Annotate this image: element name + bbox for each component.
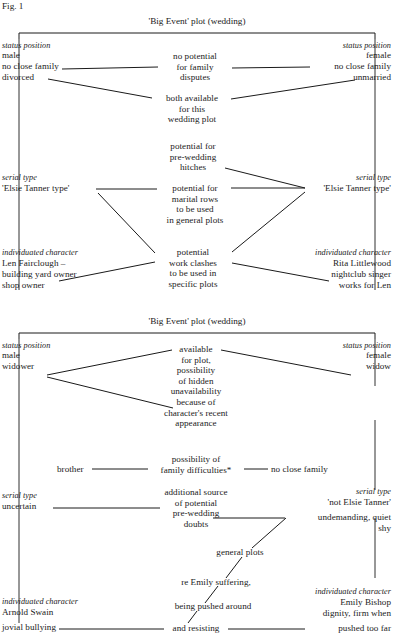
- bottom-center-block-general-plots: general plots: [216, 547, 263, 558]
- bottom-left-status-line-1: widower: [2, 361, 34, 372]
- top-right-character-line-2: works for Len: [339, 280, 391, 291]
- line-notelsie-to-generalplots: [252, 518, 286, 548]
- bottom-center-block-family-difficulties: possibility of family difficulties*: [161, 454, 232, 475]
- bottom-right-status-line-0: female: [366, 350, 391, 361]
- top-center-block-marital-rows: potential for marital rows to be used in…: [167, 183, 224, 225]
- center-line: family difficulties*: [161, 465, 232, 476]
- bottom-right-status-line-1: widow: [366, 361, 391, 372]
- bottom-right-serial-line-1: undemanding, quiet: [318, 512, 391, 523]
- top-left-character-line-2: shop owner: [2, 280, 45, 291]
- top-right-status-line-2: unmarried: [353, 72, 391, 83]
- top-center-block-both-available: both available for this wedding plot: [166, 93, 218, 125]
- center-line: appearance: [164, 418, 228, 429]
- top-center-block-no-potential-family-disputes: no potential for family disputes: [173, 51, 217, 83]
- center-line: potential for: [170, 141, 217, 152]
- center-line: pre-wedding: [170, 152, 217, 163]
- top-right-character-line-1: nightclub singer: [331, 269, 391, 280]
- center-line: possibility of: [161, 454, 232, 465]
- line-widower-to-becauseof: [47, 377, 173, 408]
- top-right-character-heading: individuated character: [315, 248, 391, 259]
- bottom-right-character-line-2: pushed too far: [338, 623, 391, 634]
- line-l-elsie-to-workclashes: [98, 193, 155, 253]
- bottom-side-label-no-close-family: no close family: [271, 464, 328, 475]
- top-left-serial-line-0: 'Elsie Tanner type': [2, 183, 70, 194]
- top-right-status-line-0: female: [366, 50, 391, 61]
- center-line: marital rows: [167, 194, 224, 205]
- center-line: both available: [166, 93, 218, 104]
- center-line: pre-wedding: [164, 508, 227, 519]
- bottom-side-label-brother: brother: [57, 464, 84, 475]
- line-pushedaround-to-resisting: [188, 611, 197, 623]
- top-right-serial-heading: serial type: [356, 173, 391, 184]
- line-l-noclosefamily-to-disputes: [62, 67, 158, 69]
- line-divorced-to-bothavailable: [48, 79, 152, 98]
- center-line: doubts: [164, 519, 227, 530]
- center-line: because of: [164, 397, 228, 408]
- top-center-block-work-clashes: potential work clashes to be used in spe…: [169, 247, 218, 289]
- top-center-block-pre-wedding-hitches: potential for pre-wedding hitches: [170, 141, 217, 173]
- center-line: wedding plot: [166, 114, 218, 125]
- bottom-right-serial-line-2: shy: [378, 523, 391, 534]
- center-line: work clashes: [169, 258, 218, 269]
- top-right-character-line-0: Rita Littlewood: [333, 258, 391, 269]
- top-right-serial-line-0: 'Elsie Tanner type': [323, 183, 391, 194]
- bottom-right-character-line-1: dignity, firm when: [323, 608, 391, 619]
- center-line: in general plots: [167, 215, 224, 226]
- diagram-top-caption: 'Big Event' plot (wedding): [149, 16, 246, 26]
- top-left-status-line-2: divorced: [2, 72, 34, 83]
- top-bracket: [19, 33, 375, 39]
- bottom-center-block-being-pushed-around: being pushed around: [175, 601, 252, 612]
- center-line: to be used: [167, 204, 224, 215]
- bottom-left-character-line-1: jovial bullying: [2, 622, 56, 633]
- bottom-left-serial-heading: serial type: [2, 491, 37, 502]
- center-line: to be used in: [169, 268, 218, 279]
- line-specificplots-to-worksforlen: [232, 263, 329, 281]
- center-line: for plot,: [164, 355, 228, 366]
- bottom-left-character-heading: individuated character: [2, 597, 78, 608]
- center-line: additional source: [164, 487, 227, 498]
- bottom-center-block-and-resisting: and resisting: [173, 623, 220, 634]
- bottom-left-serial-line-0: uncertain: [2, 501, 36, 512]
- line-unmarried-to-bothavailable: [231, 80, 355, 99]
- bottom-bracket: [19, 333, 375, 339]
- bottom-left-status-line-0: male: [2, 350, 20, 361]
- bottom-right-serial-line-0: 'not Elsie Tanner': [328, 497, 391, 508]
- bottom-left-character-line-0: Arnold Swain: [2, 607, 53, 618]
- center-line: for this: [166, 104, 218, 115]
- diagram-bottom-caption: 'Big Event' plot (wedding): [149, 316, 246, 326]
- line-workclashes-to-r-elsie: [232, 192, 305, 252]
- bottom-center-block-available-for-plot: available for plot, possibility of hidde…: [164, 344, 228, 429]
- bottom-center-block-emily-suffering: re Emily suffering,: [181, 577, 251, 588]
- line-hitches-to-r-elsie: [225, 168, 305, 188]
- center-line: possibility: [164, 365, 228, 376]
- center-line: specific plots: [169, 279, 218, 290]
- line-disputes-to-r-noclosefamily: [232, 67, 310, 68]
- center-line: unavailability: [164, 386, 228, 397]
- figure-label: Fig. 1: [2, 1, 23, 11]
- top-left-status-line-1: no close family: [2, 61, 59, 72]
- bottom-right-character-line-0: Emily Bishop: [340, 597, 391, 608]
- line-generalplots-to-emilysuffering: [226, 557, 242, 578]
- center-line: character's recent: [164, 408, 228, 419]
- bottom-right-serial-heading: serial type: [356, 487, 391, 498]
- line-widower-to-available: [47, 350, 172, 375]
- bottom-center-block-pre-wedding-doubts: additional source of potential pre-weddi…: [164, 487, 227, 529]
- top-right-status-line-1: no close family: [334, 61, 391, 72]
- top-left-character-line-0: Len Fairclough –: [2, 258, 65, 269]
- bottom-right-character-heading: individuated character: [315, 587, 391, 598]
- center-line: disputes: [173, 72, 217, 83]
- center-line: of hidden: [164, 376, 228, 387]
- top-left-character-line-1: building yard owner: [2, 269, 77, 280]
- top-left-character-heading: individuated character: [2, 248, 78, 259]
- top-left-status-line-0: male: [2, 50, 20, 61]
- center-line: hitches: [170, 162, 217, 173]
- center-line: available: [164, 344, 228, 355]
- figure-page: Fig. 1: [0, 0, 393, 636]
- center-line: of potential: [164, 498, 227, 509]
- center-line: for family: [173, 62, 217, 73]
- line-available-to-widow: [221, 350, 351, 375]
- center-line: no potential: [173, 51, 217, 62]
- top-left-serial-heading: serial type: [2, 173, 37, 184]
- center-line: potential for: [167, 183, 224, 194]
- center-line: potential: [169, 247, 218, 258]
